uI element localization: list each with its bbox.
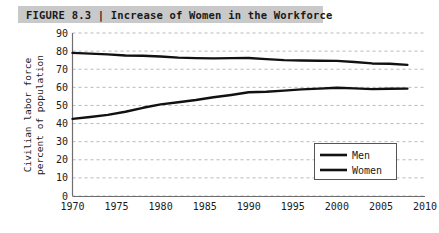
y-tick-label: 30 [56,136,68,147]
y-tick-label: 70 [56,64,68,75]
x-tick-label: 1980 [149,201,173,212]
x-tick-label: 1995 [281,201,305,212]
y-tick-label: 40 [56,118,68,129]
x-axis-tick-labels: 197019751980198519901995200020052010 [60,201,437,212]
x-tick-label: 1985 [193,201,217,212]
y-axis-title-line2: percent of population [34,55,45,175]
y-axis-title: Civilian labor force percent of populati… [22,55,45,175]
y-tick-label: 50 [56,100,68,111]
y-axis-tick-labels: 0102030405060708090 [56,28,68,202]
series-lines [73,53,408,119]
legend-label-women: Women [352,165,382,176]
y-tick-label: 10 [56,172,68,183]
legend-label-men: Men [352,150,370,161]
y-tick-label: 80 [56,46,68,57]
chart-legend: MenWomen [315,144,397,180]
y-axis-title-line1: Civilian labor force [22,58,33,173]
y-tick-label: 20 [56,154,68,165]
x-tick-label: 2010 [413,201,437,212]
y-tick-label: 90 [56,28,68,39]
x-tick-label: 1970 [60,201,84,212]
series-line-men [73,53,408,65]
y-tick-label: 60 [56,82,68,93]
x-tick-label: 1975 [105,201,129,212]
series-line-women [73,88,408,119]
chart-svg: 0102030405060708090 19701975198019851990… [0,0,439,233]
x-tick-label: 1990 [237,201,261,212]
x-tick-label: 2000 [325,201,349,212]
line-chart: 0102030405060708090 19701975198019851990… [0,0,439,233]
y-tick-label: 0 [62,191,68,202]
x-tick-label: 2005 [369,201,393,212]
